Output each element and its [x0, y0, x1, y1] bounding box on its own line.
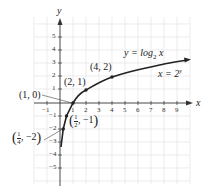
y-tick-label: −3	[49, 138, 56, 145]
y-axis-arrow-icon	[58, 18, 63, 25]
point-label-1-0: (1, 0)	[19, 90, 41, 100]
y-tick-label: −4	[49, 151, 56, 158]
y-axis-label: y	[57, 6, 61, 16]
x-tick-label: 7	[149, 107, 153, 114]
equation-exp-label: x = 2y	[158, 68, 182, 79]
point-label-4-2: (4, 2)	[90, 62, 112, 72]
y-tick-label: −1	[49, 112, 56, 119]
x-tick-label: 6	[136, 107, 140, 114]
y-tick-label: 2	[52, 72, 56, 79]
equation-log-label: y = log2 x	[124, 48, 163, 61]
point-label-half-neg1: (12, −1)	[69, 114, 98, 128]
y-tick-label: 4	[52, 46, 56, 53]
x-tick-label: 9	[175, 107, 179, 114]
y-tick-label: 5	[52, 33, 56, 40]
y-tick-label: 1	[52, 85, 56, 92]
x-tick-label: 5	[123, 107, 127, 114]
y-tick-label: 3	[52, 59, 56, 66]
x-tick-label: 8	[162, 107, 166, 114]
y-tick-label: −5	[49, 164, 56, 171]
point-label-2-1: (2, 1)	[64, 77, 86, 87]
leader-lines	[42, 95, 72, 140]
x-tick-label: 2	[84, 107, 88, 114]
x-axis-arrow-icon	[186, 101, 193, 106]
x-axis-label: x	[196, 98, 200, 108]
y-tick-label: −2	[49, 125, 56, 132]
point-label-quarter-neg2: (14, −2)	[12, 131, 41, 145]
grid	[34, 17, 190, 184]
x-tick-label: 4	[110, 107, 114, 114]
